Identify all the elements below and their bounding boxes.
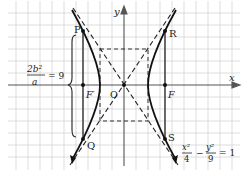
svg-text:4: 4 <box>184 154 189 164</box>
svg-text:= 9: = 9 <box>48 71 64 81</box>
label-S: S <box>168 132 175 143</box>
label-R: R <box>169 28 177 39</box>
svg-text:= 1: = 1 <box>219 148 235 158</box>
label-F-prime: F′ <box>85 89 96 100</box>
svg-text:y²: y² <box>205 142 215 152</box>
label-Q: Q <box>87 140 95 151</box>
brace <box>68 35 76 137</box>
label-F: F <box>167 89 175 100</box>
x-axis-label: x <box>229 72 235 83</box>
svg-text:2b²: 2b² <box>26 64 42 74</box>
label-P: P <box>74 24 81 35</box>
y-axis-label: y <box>113 6 120 17</box>
svg-text:a: a <box>32 77 37 87</box>
hyperbola-diagram: x y P Q R S F′ F O 2b² a = 9 <box>0 0 243 173</box>
svg-text:9: 9 <box>208 154 213 164</box>
svg-text:−: − <box>196 148 204 158</box>
label-O: O <box>110 89 118 100</box>
latus-rectum-formula: 2b² a = 9 <box>26 64 64 87</box>
svg-text:x²: x² <box>182 142 191 152</box>
